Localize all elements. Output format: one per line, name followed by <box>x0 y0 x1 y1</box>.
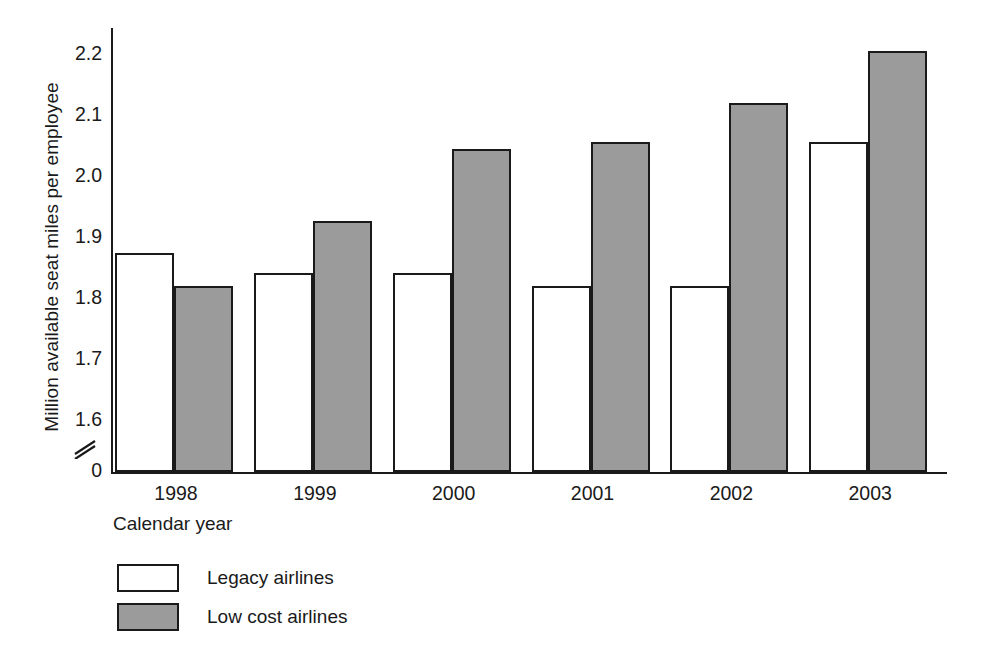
y-tick-label: 0 <box>48 461 102 481</box>
x-tick-label-1998: 1998 <box>106 481 246 505</box>
x-tick-label-1999: 1999 <box>245 481 385 505</box>
bar-1998-low-cost-airlines <box>174 286 233 472</box>
bar-2000-low-cost-airlines <box>452 149 511 472</box>
y-tick-label: 2.2 <box>48 44 102 64</box>
axis-break-icon <box>73 437 99 459</box>
plot-area <box>113 28 946 472</box>
y-tick-label: 1.8 <box>48 288 102 308</box>
bar-chart: Million available seat miles per employe… <box>0 0 995 669</box>
x-axis-title: Calendar year <box>113 513 232 535</box>
bar-2003-legacy-airlines <box>809 142 868 472</box>
x-axis-line <box>111 472 947 474</box>
y-tick-label: 1.9 <box>48 227 102 247</box>
bars-container <box>113 28 946 472</box>
chart-legend: Legacy airlines Low cost airlines <box>117 561 347 639</box>
bar-1999-low-cost-airlines <box>313 221 372 472</box>
bar-2000-legacy-airlines <box>393 273 452 472</box>
bar-1998-legacy-airlines <box>115 253 174 472</box>
legend-item-low-cost-airlines: Low cost airlines <box>117 600 347 633</box>
legend-label: Legacy airlines <box>207 567 334 589</box>
y-axis-tick-labels: 2.2 2.1 2.0 1.9 1.8 1.7 1.6 0 <box>48 0 102 669</box>
x-tick-label-2000: 2000 <box>384 481 524 505</box>
bar-2001-legacy-airlines <box>532 286 591 472</box>
x-tick-label-2001: 2001 <box>523 481 663 505</box>
y-tick-label: 1.6 <box>48 410 102 430</box>
legend-swatch-low-cost-airlines <box>117 603 179 631</box>
x-tick-label-2003: 2003 <box>800 481 940 505</box>
bar-2002-low-cost-airlines <box>729 103 788 472</box>
bar-1999-legacy-airlines <box>254 273 313 472</box>
x-tick-label-2002: 2002 <box>661 481 801 505</box>
legend-item-legacy-airlines: Legacy airlines <box>117 561 347 594</box>
legend-swatch-legacy-airlines <box>117 564 179 592</box>
bar-2002-legacy-airlines <box>670 286 729 472</box>
bar-2003-low-cost-airlines <box>868 51 927 472</box>
y-tick-label: 2.0 <box>48 166 102 186</box>
bar-2001-low-cost-airlines <box>591 142 650 472</box>
y-tick-label: 2.1 <box>48 105 102 125</box>
x-axis-tick-labels: 199819992000200120022003 <box>113 481 946 509</box>
y-tick-label: 1.7 <box>48 349 102 369</box>
legend-label: Low cost airlines <box>207 606 347 628</box>
